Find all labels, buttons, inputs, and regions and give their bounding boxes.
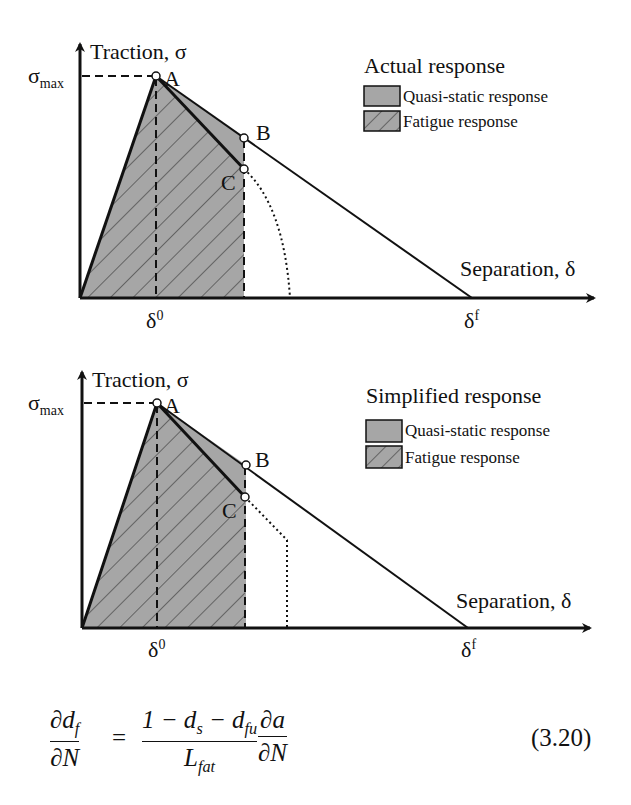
equation-3-20: ∂df ∂N = 1 − ds − dfu Lfat ∂a ∂N (3.20) [50,706,610,786]
point-a-label: A [164,393,180,418]
rhs-fraction: 1 − ds − dfu Lfat [142,706,257,776]
y-axis-label: Traction, σ [92,367,189,392]
legend-label-quasi-static: Quasi-static response [403,87,548,106]
delta0-label: δ0 [146,308,163,333]
point-c-marker [240,165,248,173]
fatigue-area [80,76,244,298]
degradation-dotted-arc [244,169,290,298]
deltaf-label: δf [461,637,476,662]
legend-actual: Actual response Quasi-static response Fa… [364,53,548,131]
point-b-label: B [256,120,271,145]
point-a-marker [152,72,160,80]
panel-simplified-response: A B C Traction, σ Separation, δ σmax δ0 … [28,367,590,662]
legend-title: Simplified response [366,383,541,408]
sigma-max-label: σmax [28,63,64,91]
point-b-label: B [255,447,270,472]
point-a-label: A [164,66,180,91]
point-c-label: C [222,498,237,523]
point-b-marker [240,134,248,142]
deltaf-label: δf [464,308,479,333]
rhs-denominator: Lfat [142,744,257,777]
point-a-marker [153,399,161,407]
dn-denominator: ∂N [258,739,287,767]
da-numerator: ∂a [258,706,287,734]
legend-swatch-fatigue [364,111,400,131]
equals-sign: = [112,724,126,752]
panel-actual-response: A B C Traction, σ Separation, δ σmax δ0 … [28,39,594,333]
point-c-label: C [221,170,236,195]
equation-number: (3.20) [531,724,591,752]
y-axis-label: Traction, σ [90,39,187,64]
da-dn-fraction: ∂a ∂N [258,706,287,767]
legend-label-fatigue: Fatigue response [405,448,520,467]
fatigue-area [82,403,245,628]
sigma-max-label: σmax [28,390,64,418]
fraction-bar [50,741,79,742]
x-axis-label: Separation, δ [456,588,571,613]
figure-canvas: A B C Traction, σ Separation, δ σmax δ0 … [0,0,631,805]
lhs-fraction: ∂df ∂N [50,706,79,772]
legend-label-quasi-static: Quasi-static response [405,421,550,440]
point-c-marker [241,493,249,501]
fraction-bar [258,736,287,737]
point-b-marker [242,461,250,469]
legend-swatch-fatigue [366,446,402,468]
legend-swatch-quasi-static [364,86,400,106]
fraction-bar [142,741,257,742]
rhs-numerator: 1 − ds − dfu [142,706,257,739]
legend-simplified: Simplified response Quasi-static respons… [366,383,550,468]
lhs-denominator: ∂N [50,744,79,772]
degradation-dotted-polyline [245,497,287,628]
lhs-numerator: ∂df [50,706,79,739]
legend-title: Actual response [364,53,505,78]
x-axis-label: Separation, δ [460,256,575,281]
legend-swatch-quasi-static [366,420,402,442]
legend-label-fatigue: Fatigue response [403,112,518,131]
delta0-label: δ0 [148,637,165,662]
